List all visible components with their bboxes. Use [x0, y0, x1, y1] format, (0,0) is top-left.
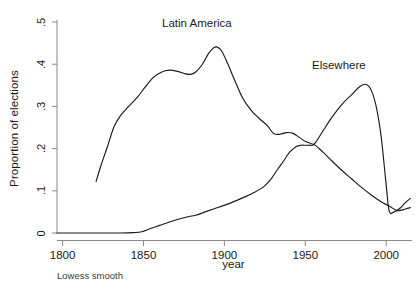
- y-tick-label-5: .5: [35, 11, 48, 33]
- y-axis-title: Proportion of elections: [8, 21, 24, 236]
- y-tick-label-1: .1: [35, 180, 48, 202]
- y-axis-ticks: [52, 22, 57, 233]
- series-line-latin-america: [96, 47, 410, 211]
- x-axis-title: year: [57, 258, 410, 270]
- y-axis-title-wrapper: Proportion of elections: [8, 21, 24, 236]
- chart-figure: .5 .4 .3 .2 .1 0 Proportion of elections…: [0, 0, 419, 297]
- x-axis-ticks: [63, 241, 387, 247]
- series-label-latin-america: Latin America: [162, 17, 232, 29]
- data-series-group: [57, 47, 410, 233]
- series-line-elsewhere: [57, 84, 410, 233]
- y-tick-label-3: .3: [35, 95, 48, 117]
- series-label-elsewhere: Elsewhere: [312, 59, 366, 71]
- y-tick-label-2: .2: [35, 138, 48, 160]
- y-tick-label-4: .4: [35, 53, 48, 75]
- chart-footnote: Lowess smooth: [57, 270, 123, 281]
- y-tick-label-0: 0: [35, 222, 48, 244]
